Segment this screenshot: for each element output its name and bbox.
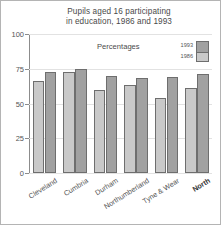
y-tick-label-0: 0: [2, 169, 24, 178]
chart-legend: Percentages 1993 1986: [97, 41, 209, 71]
legend-swatch-1986: [196, 52, 209, 62]
x-axis-category-labels: ClevelandCumbriaDurhamNorthumberlandTyne…: [29, 173, 212, 225]
legend-label-1986: 1986: [181, 53, 193, 59]
chart-title-line-2: in education, 1986 and 1993: [23, 17, 215, 27]
bar-northumberland-1986: [124, 85, 136, 173]
y-tick-mark-100: [25, 34, 29, 35]
bar-tyne-wear-1986: [155, 98, 167, 173]
y-tick-mark-75: [25, 69, 29, 70]
bar-north-1986: [185, 88, 197, 173]
bar-north-1993: [197, 74, 209, 173]
y-tick-label-75: 75: [2, 65, 24, 74]
bar-northumberland-1993: [136, 78, 148, 173]
chart-container: Pupils aged 16 participating in educatio…: [0, 0, 221, 225]
x-label-north: North: [190, 176, 211, 194]
bar-group: [60, 34, 91, 173]
y-tick-mark-0: [25, 173, 29, 174]
legend-title: Percentages: [97, 42, 140, 51]
bar-cleveland-1993: [45, 72, 57, 173]
y-tick-mark-50: [25, 104, 29, 105]
y-tick-label-50: 50: [2, 100, 24, 109]
bar-durham-1993: [106, 76, 118, 173]
legend-label-1993: 1993: [181, 42, 193, 48]
bar-tyne-wear-1993: [167, 77, 179, 173]
bar-cumbria-1986: [63, 72, 75, 173]
x-label-cleveland: Cleveland: [27, 176, 59, 201]
bar-durham-1986: [94, 90, 106, 173]
bar-cleveland-1986: [33, 81, 45, 173]
bar-cumbria-1993: [75, 69, 87, 173]
chart-title: Pupils aged 16 participating in educatio…: [23, 7, 215, 27]
y-tick-label-100: 100: [2, 30, 24, 39]
y-tick-label-25: 25: [2, 134, 24, 143]
bar-group: [29, 34, 60, 173]
y-tick-mark-25: [25, 138, 29, 139]
x-label-cumbria: Cumbria: [62, 176, 90, 198]
chart-title-line-1: Pupils aged 16 participating: [23, 7, 215, 17]
y-axis-tick-labels: 0255075100: [1, 34, 24, 174]
